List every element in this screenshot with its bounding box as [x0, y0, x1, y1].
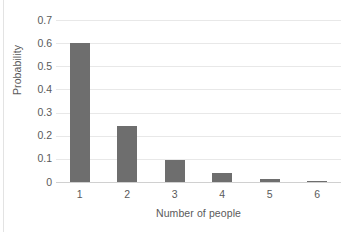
bar[interactable] — [260, 179, 280, 182]
y-axis-tick-labels: 00.10.20.30.40.50.60.7 — [14, 13, 52, 189]
y-tick-label: 0.2 — [14, 129, 52, 142]
x-axis-line — [56, 182, 341, 183]
x-tick-label: 3 — [151, 187, 199, 201]
x-axis-tick-labels: 123456 — [56, 187, 341, 201]
probability-bar-chart: Probability 00.10.20.30.40.50.60.7 12345… — [0, 0, 354, 232]
x-tick-label: 6 — [294, 187, 342, 201]
plot-area — [56, 20, 341, 182]
x-tick-label: 4 — [199, 187, 247, 201]
bar-slot — [294, 20, 342, 182]
bar[interactable] — [117, 126, 137, 182]
x-tick-label: 1 — [56, 187, 104, 201]
y-tick-label: 0.3 — [14, 106, 52, 119]
bar-slot — [199, 20, 247, 182]
bar[interactable] — [212, 173, 232, 182]
x-tick-label: 5 — [246, 187, 294, 201]
y-tick-label: 0 — [14, 176, 52, 189]
bar-slot — [56, 20, 104, 182]
y-tick-label: 0.4 — [14, 83, 52, 96]
bar[interactable] — [70, 43, 90, 182]
x-axis-title: Number of people — [56, 206, 341, 220]
y-tick-label: 0.6 — [14, 37, 52, 50]
bar-slot — [104, 20, 152, 182]
page-edge-artifact — [3, 0, 4, 232]
x-tick-label: 2 — [104, 187, 152, 201]
bar-slot — [246, 20, 294, 182]
bar[interactable] — [307, 181, 327, 182]
bar[interactable] — [165, 160, 185, 182]
bars-layer — [56, 20, 341, 182]
y-tick-label: 0.1 — [14, 152, 52, 165]
y-tick-label: 0.5 — [14, 60, 52, 73]
y-tick-label: 0.7 — [14, 14, 52, 27]
bar-slot — [151, 20, 199, 182]
